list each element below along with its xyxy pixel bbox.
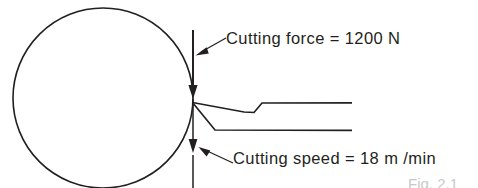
figure-caption: Fig. 2.1 <box>408 176 458 188</box>
cutting-speed-arrow-head <box>189 139 198 153</box>
cutting-force-arrow-head <box>188 85 197 99</box>
cutting-tool-rake-face <box>193 103 353 113</box>
cutting-force-leader-arrow-head <box>196 47 209 55</box>
cutting-speed-label: Cutting speed = 18 m /min <box>233 150 436 167</box>
workpiece-circle <box>13 8 193 188</box>
cutting-force-label: Cutting force = 1200 N <box>226 30 400 47</box>
cutting-speed-leader-arrow-head <box>199 147 211 157</box>
machining-diagram-figure: Cutting force = 1200 N Cutting speed = 1… <box>0 0 478 188</box>
